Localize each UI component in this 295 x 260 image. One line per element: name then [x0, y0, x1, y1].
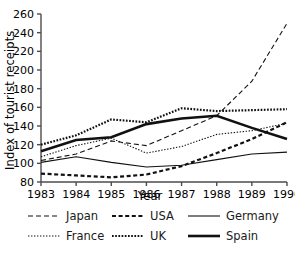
legend-label-japan: Japan: [66, 210, 98, 222]
legend-label-spain: Spain: [226, 230, 258, 242]
line-chart: Index of tourist receipts 80100120140160…: [0, 0, 295, 260]
legend-swatch-spain: [187, 230, 221, 242]
chart-legend: Japan USA Germany France UK Spain: [0, 206, 295, 260]
legend-item-japan: Japan: [27, 206, 111, 226]
legend-row: Japan USA Germany: [0, 206, 295, 226]
legend-swatch-usa: [111, 210, 145, 222]
legend-item-usa: USA: [111, 206, 187, 226]
x-tick-label: 1983: [27, 188, 55, 201]
legend-swatch-japan: [27, 210, 61, 222]
x-tick-label: 1988: [203, 188, 231, 201]
y-tick-label: 220: [13, 45, 34, 58]
x-tick-label: 1984: [62, 188, 90, 201]
legend-label-uk: UK: [150, 230, 166, 242]
series-line-usa: [41, 122, 287, 177]
y-tick-label: 240: [13, 27, 34, 40]
plot-area: Index of tourist receipts 80100120140160…: [0, 0, 295, 205]
legend-item-uk: UK: [111, 226, 187, 246]
y-tick-label: 100: [13, 157, 34, 170]
legend-swatch-uk: [111, 230, 145, 242]
y-tick-label: 260: [13, 8, 34, 21]
chart-canvas: Index of tourist receipts 80100120140160…: [0, 0, 295, 205]
x-tick-label: 1985: [97, 188, 125, 201]
legend-row: France UK Spain: [0, 226, 295, 246]
x-axis-title-text: Year: [137, 189, 163, 203]
y-tick-label: 180: [13, 83, 34, 96]
x-tick-label: 1990: [273, 188, 295, 201]
legend-item-france: France: [27, 226, 111, 246]
legend-label-usa: USA: [150, 210, 174, 222]
legend-label-germany: Germany: [226, 210, 279, 222]
x-tick-label: 1987: [168, 188, 196, 201]
y-tick-label: 140: [13, 120, 34, 133]
y-tick-labels: 80100120140160180200220240260: [13, 8, 41, 189]
legend-label-france: France: [66, 230, 104, 242]
series-line-germany: [41, 152, 287, 167]
y-tick-label: 120: [13, 139, 34, 152]
legend-swatch-germany: [187, 210, 221, 222]
y-tick-label: 160: [13, 101, 34, 114]
x-tick-label: 1989: [238, 188, 266, 201]
legend-swatch-france: [27, 230, 61, 242]
series-lines: [41, 23, 287, 177]
legend-item-spain: Spain: [187, 226, 287, 246]
y-tick-label: 200: [13, 64, 34, 77]
legend-item-germany: Germany: [187, 206, 287, 226]
